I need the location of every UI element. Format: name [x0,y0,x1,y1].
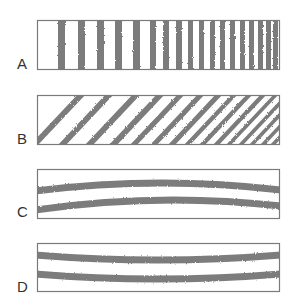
diagonal-stripes [29,93,294,146]
panel-label-c: C [17,205,28,219]
panel-label-b: B [17,132,27,146]
curved-bands-sag [35,252,281,283]
panel-c [35,170,281,219]
panel-frame [38,170,280,219]
panel-a [38,18,280,71]
panel-b [29,93,294,146]
vertical-stripes [58,18,278,71]
panel-label-a: A [17,57,27,71]
panel-d [35,244,281,292]
panel-label-d: D [17,280,28,294]
stripe-pattern-figure [0,0,294,308]
panel-frame [38,244,280,292]
curved-bands-arch [35,179,281,213]
